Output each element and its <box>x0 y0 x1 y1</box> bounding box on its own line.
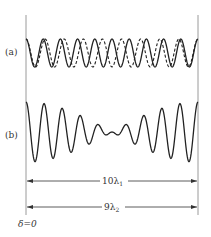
panel-b-label: (b) <box>5 130 18 140</box>
svg-text:9λ2: 9λ2 <box>104 202 119 213</box>
span-9-lambda2: 9λ2 <box>27 202 197 213</box>
origin-label: δ=0 <box>18 219 37 229</box>
panel-a-label: (a) <box>5 47 17 57</box>
wave-a-dashed <box>26 39 198 67</box>
interference-diagram: (a) (b) 10λ1 9λ2 δ=0 <box>0 0 211 237</box>
wave-b-superposition <box>26 102 198 162</box>
svg-text:10λ1: 10λ1 <box>102 176 123 187</box>
span-10-lambda1: 10λ1 <box>27 176 197 187</box>
